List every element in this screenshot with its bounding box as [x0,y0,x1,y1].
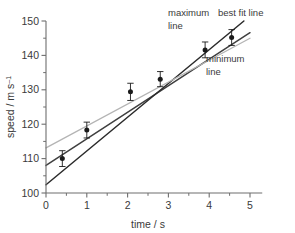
x-axis-title: time / s [131,218,165,230]
y-axis-title-group: speed / m s–1 [4,76,16,138]
y-tick-label: 100 [21,187,39,199]
x-tick-label: 0 [43,199,49,211]
minimum-line-label-line2: line [206,66,221,77]
minimum-line-label-line1: minimum [206,53,245,64]
speed-vs-time-chart: 100110120130140150012345 time / s speed … [0,0,295,233]
x-tick-label: 5 [247,199,253,211]
maximum-line-label-line2: line [168,20,183,31]
chart-container: 100110120130140150012345 time / s speed … [0,0,295,233]
x-tick-label: 2 [125,199,131,211]
x-tick-label: 4 [206,199,212,211]
best-fit-line-label: best fit line [218,7,263,18]
y-tick-label: 130 [21,83,39,95]
y-tick-label: 110 [22,152,39,164]
x-tick-label: 3 [165,199,171,211]
y-tick-label: 140 [21,49,39,61]
x-tick-label: 1 [84,199,90,211]
y-axis-title: speed / m s–1 [4,76,16,138]
best-fit-line-label-line1: best fit line [218,7,263,18]
y-tick-label: 150 [21,15,39,27]
maximum-line-label-line1: maximum [168,7,209,18]
y-tick-label: 120 [21,118,39,130]
